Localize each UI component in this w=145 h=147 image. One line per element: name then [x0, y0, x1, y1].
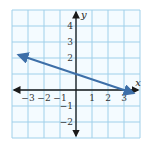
y-tick-label: −2 — [60, 117, 73, 127]
y-tick-label: −1 — [60, 101, 73, 111]
x-tick-label: −3 — [21, 93, 35, 103]
y-axis-label: y — [80, 9, 87, 20]
y-tick-label: 3 — [67, 37, 73, 47]
x-axis-label: x — [135, 77, 141, 88]
y-tick-label: 4 — [67, 21, 73, 31]
y-tick-label: 2 — [67, 53, 73, 63]
x-tick-label: −2 — [37, 93, 50, 103]
x-tick-label: 1 — [89, 93, 95, 103]
x-tick-label: 2 — [105, 93, 111, 103]
coordinate-plane: −3−2−1123432−1−2 x y — [0, 0, 145, 147]
x-tick-label: 3 — [121, 93, 127, 103]
